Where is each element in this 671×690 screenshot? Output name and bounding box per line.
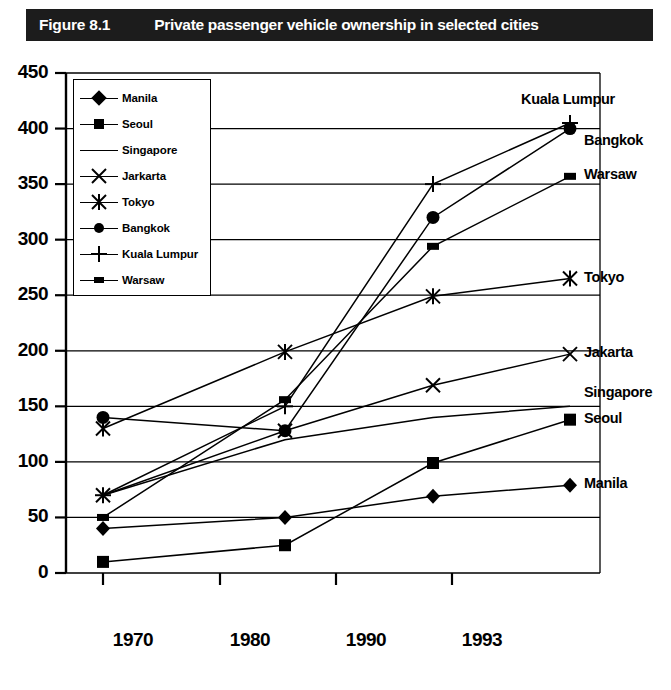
series-end-label-bangkok: Bangkok — [584, 132, 643, 148]
y-axis-tick-label: 150 — [0, 394, 48, 416]
data-point-warsaw — [427, 243, 439, 250]
data-point-warsaw — [279, 396, 291, 403]
x-axis-tick-label: 1970 — [93, 629, 173, 651]
data-point-bangkok — [427, 211, 440, 224]
data-point-jakarta — [563, 347, 577, 361]
y-axis-tick-label: 50 — [0, 505, 48, 527]
chart-plot-area: ManilaSeoulSingaporeJarkartaTokyoBangkok… — [0, 48, 671, 690]
series-end-label-tokyo: Tokyo — [584, 269, 624, 285]
data-point-seoul — [564, 414, 576, 426]
y-axis-tick-label: 100 — [0, 450, 48, 472]
x-axis-tick-label: 1993 — [442, 629, 522, 651]
legend-label: Jarkarta — [122, 170, 166, 182]
legend-item-kuala-lumpur[interactable]: Kuala Lumpur — [74, 241, 210, 267]
data-point-seoul — [279, 539, 291, 551]
series-end-label-manila: Manila — [584, 475, 627, 491]
data-point-seoul — [97, 556, 109, 568]
data-point-jakarta — [426, 378, 440, 392]
figure-page: Figure 8.1 Private passenger vehicle own… — [0, 0, 671, 690]
legend-marker-circle-icon — [79, 218, 119, 238]
series-line-manila — [103, 485, 570, 528]
figure-number: Figure 8.1 — [39, 16, 110, 34]
x-axis-tick-label: 1990 — [326, 629, 406, 651]
data-point-manila — [96, 521, 110, 536]
y-axis-tick-label: 400 — [0, 117, 48, 139]
legend-item-warsaw[interactable]: Warsaw — [74, 267, 210, 293]
y-axis-tick-label: 450 — [0, 61, 48, 83]
legend-label: Singapore — [122, 144, 177, 156]
legend-item-jakarta[interactable]: Jarkarta — [74, 163, 210, 189]
legend-marker-square-icon — [79, 114, 119, 134]
chart-legend: ManilaSeoulSingaporeJarkartaTokyoBangkok… — [73, 79, 211, 296]
data-point-warsaw — [97, 514, 109, 521]
data-point-bangkok — [279, 424, 292, 437]
data-point-manila — [426, 489, 440, 504]
legend-item-tokyo[interactable]: Tokyo — [74, 189, 210, 215]
legend-label: Manila — [122, 92, 157, 104]
legend-label: Seoul — [122, 118, 153, 130]
x-axis-tick-label: 1980 — [210, 629, 290, 651]
series-line-singapore — [103, 406, 570, 495]
legend-marker-rect-icon — [79, 270, 119, 290]
data-point-bangkok — [97, 411, 110, 424]
y-axis-tick-label: 300 — [0, 228, 48, 250]
legend-marker-none-icon — [79, 140, 119, 160]
figure-title: Private passenger vehicle ownership in s… — [154, 16, 538, 34]
legend-item-seoul[interactable]: Seoul — [74, 111, 210, 137]
y-axis-tick-label: 350 — [0, 172, 48, 194]
legend-label: Tokyo — [122, 196, 155, 208]
legend-item-singapore[interactable]: Singapore — [74, 137, 210, 163]
legend-marker-plus-icon — [79, 244, 119, 264]
legend-marker-diamond-icon — [79, 88, 119, 108]
data-point-warsaw — [564, 173, 576, 180]
legend-glyph — [91, 246, 107, 262]
figure-title-bar: Figure 8.1 Private passenger vehicle own… — [26, 9, 653, 41]
y-axis-tick-label: 0 — [0, 561, 48, 583]
y-axis-tick-label: 250 — [0, 283, 48, 305]
data-point-kuala-lumpur — [425, 176, 441, 192]
y-axis-tick-label: 200 — [0, 339, 48, 361]
legend-label: Kuala Lumpur — [122, 248, 198, 260]
data-point-seoul — [427, 457, 439, 469]
legend-label: Warsaw — [122, 274, 164, 286]
legend-item-manila[interactable]: Manila — [74, 85, 210, 111]
series-end-label-seoul: Seoul — [584, 410, 622, 426]
legend-item-bangkok[interactable]: Bangkok — [74, 215, 210, 241]
data-point-manila — [278, 510, 292, 525]
legend-marker-x-icon — [79, 166, 119, 186]
data-point-tokyo — [278, 344, 292, 360]
legend-glyph — [92, 194, 106, 210]
data-point-manila — [563, 478, 577, 493]
legend-marker-asterisk-icon — [79, 192, 119, 212]
series-end-label-singapore: Singapore — [584, 384, 652, 400]
series-end-label-kuala-lumpur: Kuala Lumpur — [521, 91, 615, 107]
legend-label: Bangkok — [122, 222, 170, 234]
series-end-label-jakarta: Jakarta — [584, 344, 633, 360]
series-end-label-warsaw: Warsaw — [584, 166, 636, 182]
legend-glyph — [92, 169, 106, 183]
